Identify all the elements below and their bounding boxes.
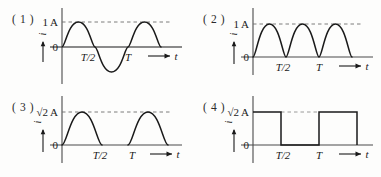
panel-1-origin-label: 0 xyxy=(53,41,59,53)
panel-1-t-arrow-head xyxy=(165,54,171,59)
panel-4-xtick-period: T xyxy=(316,149,323,161)
panel-3-xtick-period: T xyxy=(129,149,136,161)
panel-3-i-arrow-head xyxy=(41,129,46,134)
panel-4-x-axis-label: t xyxy=(365,148,369,160)
panel-3-origin-label: 0 xyxy=(53,139,59,151)
panel-3-waveform-pulse-2 xyxy=(128,112,168,145)
panel-3-t-arrow-head xyxy=(167,152,173,157)
panel-4-waveform-square xyxy=(253,112,357,145)
panel-3-amplitude-label: √2 A xyxy=(36,106,58,118)
panel-1-xtick-period: T xyxy=(125,51,132,63)
panel-2-x-axis-label: t xyxy=(365,60,369,72)
panel-2: ( 2 ) i 1 A 0 T/2 T t xyxy=(191,0,381,88)
panel-4-xtick-half-period: T/2 xyxy=(276,149,291,161)
panel-3-waveform-pulse-1 xyxy=(62,112,102,145)
panel-4: ( 4 ) i √2 A 0 T/2 T t xyxy=(191,88,381,176)
panel-2-amplitude-label: 1 A xyxy=(233,18,249,30)
panel-2-xtick-half-period: T/2 xyxy=(276,61,291,73)
figure-root: ( 1 ) i 1 A 0 xyxy=(0,0,381,177)
panel-3-plot: √2 A 0 T/2 T t xyxy=(0,88,190,176)
panel-2-plot: 1 A 0 T/2 T t xyxy=(191,0,381,88)
panel-1-amplitude-label: 1 A xyxy=(42,16,58,28)
panel-2-origin-label: 0 xyxy=(244,51,250,63)
panel-4-amplitude-label: √2 A xyxy=(227,106,249,118)
panel-3: ( 3 ) i √2 A 0 T/2 T t xyxy=(0,88,190,176)
panel-4-plot: √2 A 0 T/2 T t xyxy=(191,88,381,176)
panel-4-i-arrow-head xyxy=(232,129,237,134)
panel-1-plot: 1 A 0 T/2 T t xyxy=(0,0,190,88)
panel-2-t-arrow-head xyxy=(356,64,362,69)
panel-4-origin-label: 0 xyxy=(244,139,250,151)
panel-1-x-axis-label: t xyxy=(174,50,178,62)
panel-4-t-arrow-head xyxy=(356,152,362,157)
panel-2-waveform-curve xyxy=(253,24,352,57)
panel-1-xtick-half-period: T/2 xyxy=(81,51,96,63)
panel-1-i-arrow-head xyxy=(41,41,46,46)
panel-2-i-arrow-head xyxy=(232,41,237,46)
panel-1: ( 1 ) i 1 A 0 xyxy=(0,0,190,88)
panel-3-xtick-half-period: T/2 xyxy=(93,149,108,161)
panel-2-xtick-period: T xyxy=(316,61,323,73)
panel-3-x-axis-label: t xyxy=(176,148,180,160)
